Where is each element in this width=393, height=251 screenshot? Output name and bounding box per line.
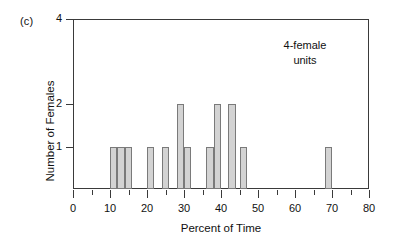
x-axis-minor-tick [92,190,93,195]
x-axis-tick [295,190,296,198]
y-axis-tick [66,19,74,20]
x-axis-tick-label: 0 [58,203,88,214]
histogram-bar [206,147,213,190]
x-axis-minor-tick [351,190,352,195]
x-axis-tick [73,190,74,198]
x-axis-minor-tick [129,190,130,195]
x-axis-tick-label: 60 [280,203,310,214]
x-axis-tick-label: 20 [132,203,162,214]
y-axis-tick [66,147,74,148]
y-axis-label-holder: Number of Females [27,30,41,170]
panel-label: (c) [20,15,33,27]
histogram-bar [184,147,191,190]
x-axis-minor-tick [240,190,241,195]
y-axis-label: Number of Females [44,56,56,206]
histogram-bar [177,104,184,189]
histogram-bar [110,147,117,190]
annotation-line-1: 4-female [262,38,348,53]
x-axis-tick [110,190,111,198]
histogram-bar [240,147,247,190]
x-axis-tick [258,190,259,198]
x-axis-minor-tick [277,190,278,195]
x-axis-tick [221,190,222,198]
x-axis-tick [184,190,185,198]
x-axis-minor-tick [203,190,204,195]
histogram-bar [162,147,169,190]
histogram-figure: (c) 124 01020304050607080 Number of Fema… [0,0,393,251]
histogram-bar [228,104,235,189]
x-axis-tick [332,190,333,198]
x-axis-tick-label: 10 [95,203,125,214]
y-axis-tick-label: 4 [38,13,62,24]
x-axis-tick-label: 70 [317,203,347,214]
histogram-bar [325,147,332,190]
y-axis-tick [66,104,74,105]
chart-annotation: 4-female units [262,38,348,68]
x-axis-tick-label: 50 [243,203,273,214]
x-axis-tick [147,190,148,198]
x-axis-minor-tick [166,190,167,195]
x-axis-minor-tick [314,190,315,195]
x-axis-tick-label: 80 [354,203,384,214]
x-axis-tick [369,190,370,198]
x-axis-label: Percent of Time [73,222,369,234]
annotation-line-2: units [262,53,348,68]
histogram-bar [214,104,221,189]
x-axis-tick-label: 30 [169,203,199,214]
x-axis-tick-label: 40 [206,203,236,214]
histogram-bar [125,147,132,190]
histogram-bar [147,147,154,190]
histogram-bar [117,147,124,190]
